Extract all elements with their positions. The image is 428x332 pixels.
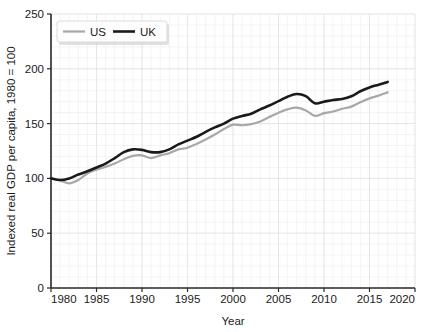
x-tick-label: 2005 — [266, 293, 292, 305]
x-tick-label: 1985 — [84, 293, 110, 305]
y-tick-label: 150 — [25, 118, 44, 130]
x-tick-label: 1990 — [129, 293, 155, 305]
legend-label-uk: UK — [140, 26, 156, 38]
legend-label-us: US — [90, 26, 106, 38]
y-tick-label: 0 — [38, 282, 44, 294]
chart-container: 050100150200250 198019851990199520002005… — [0, 0, 428, 332]
line-chart: 050100150200250 198019851990199520002005… — [0, 0, 428, 332]
chart-legend: US UK — [57, 21, 169, 45]
chart-background — [0, 0, 428, 332]
x-tick-label: 2000 — [220, 293, 246, 305]
y-tick-label: 250 — [25, 8, 44, 20]
x-tick-label: 2020 — [389, 293, 415, 305]
y-tick-label: 100 — [25, 172, 44, 184]
y-tick-label: 50 — [31, 227, 44, 239]
x-tick-label: 1995 — [175, 293, 201, 305]
x-tick-label: 2015 — [357, 293, 383, 305]
x-axis-title: Year — [221, 315, 244, 327]
y-axis-title: Indexed real GDP per capita, 1980 = 100 — [5, 46, 17, 255]
x-tick-label: 1980 — [51, 293, 77, 305]
x-tick-label: 2010 — [311, 293, 337, 305]
y-tick-label: 200 — [25, 63, 44, 75]
